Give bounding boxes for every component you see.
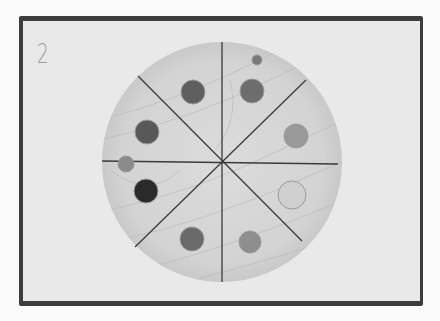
dot — [118, 156, 134, 172]
dot — [180, 227, 204, 251]
dot — [284, 124, 308, 148]
dot — [134, 179, 158, 203]
dot — [181, 80, 205, 104]
dot — [278, 181, 306, 209]
dot — [240, 79, 264, 103]
dot — [239, 231, 261, 253]
dot — [252, 55, 262, 65]
dot — [135, 120, 159, 144]
disc-illustration — [0, 0, 440, 321]
